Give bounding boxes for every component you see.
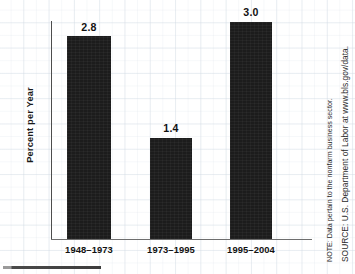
chart-source-text: SOURCE: U.S. Department of Labor at www.… <box>340 46 350 262</box>
bar-value-1995-2004: 3.0 <box>230 6 272 18</box>
bar-value-1948-1973: 2.8 <box>67 21 111 33</box>
bar-value-1973-1995: 1.4 <box>150 122 192 134</box>
bar-category-1948-1973: 1948–1973 <box>42 244 136 255</box>
bottom-divider-rule <box>3 266 101 269</box>
chart-note-text: NOTE: Data pertain to the nonfarm busine… <box>326 98 334 262</box>
y-axis-title: Percent per Year <box>25 60 35 190</box>
bar-chart-plot-area: Percent per Year 2.8 1948–1973 1.4 1973–… <box>0 0 320 274</box>
y-axis-line <box>51 21 52 239</box>
bar-1995-2004 <box>230 22 272 239</box>
bar-category-1995-2004: 1995–2004 <box>204 244 298 255</box>
x-axis-line <box>51 239 312 240</box>
bar-1973-1995 <box>150 138 192 239</box>
bar-1948-1973 <box>67 36 111 238</box>
